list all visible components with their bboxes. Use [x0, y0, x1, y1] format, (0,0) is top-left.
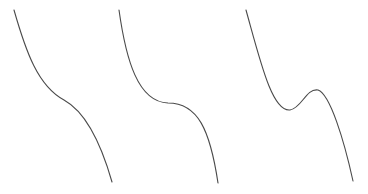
curve-no-stationary-point [14, 10, 112, 182]
cubic-curves-diagram [0, 0, 368, 194]
curves-svg [0, 0, 368, 194]
curve-stationary-inflection [119, 10, 218, 183]
curve-local-min-max [246, 10, 353, 181]
